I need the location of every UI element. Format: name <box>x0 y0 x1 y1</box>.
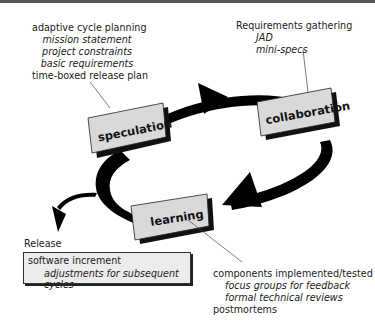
asd-cycle-diagram: speculation collaboration learning adapt… <box>0 0 375 330</box>
arrowhead-right-icon <box>222 172 262 207</box>
collaboration-notes: Requirements gathering JAD mini-specs <box>236 20 352 56</box>
leader-learning <box>188 220 242 262</box>
learning-notes: components implemented/tested focus grou… <box>213 268 373 316</box>
speculation-footer: time-boxed release plan <box>32 70 142 82</box>
learning-item: focus groups for feedback <box>213 280 373 292</box>
release-box: software increment adjustments for subse… <box>23 252 191 284</box>
leader-collaboration <box>303 50 308 92</box>
release-heading: Release <box>24 238 62 250</box>
release-line-1: software increment <box>28 255 121 266</box>
speculation-notes: adaptive cycle planning mission statemen… <box>32 22 142 82</box>
collaboration-item: mini-specs <box>236 44 352 56</box>
learning-item: formal technical reviews <box>213 292 373 304</box>
speculation-item: basic requirements <box>32 58 142 70</box>
speculation-heading: adaptive cycle planning <box>32 22 142 34</box>
learning-footer: postmortems <box>213 304 373 316</box>
speculation-item: project constraints <box>32 46 142 58</box>
arrowhead-release-icon <box>52 206 66 232</box>
collaboration-item: JAD <box>236 32 352 44</box>
release-line-2: adjustments for subsequent cycles <box>44 268 190 290</box>
collaboration-heading: Requirements gathering <box>236 20 352 32</box>
arrow-release-branch <box>57 193 97 210</box>
learning-heading: components implemented/tested <box>213 268 373 280</box>
speculation-item: mission statement <box>32 34 142 46</box>
leader-speculation <box>90 82 110 108</box>
